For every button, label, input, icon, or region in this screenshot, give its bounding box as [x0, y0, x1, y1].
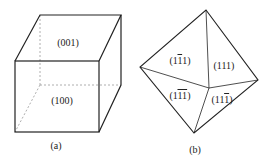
- face-label-11-1bar: (111): [212, 94, 233, 106]
- crystal-diagram: (001) (100) (a) (111) (111) (111) (111) …: [0, 0, 276, 165]
- face-label-111: (111): [214, 60, 235, 72]
- octahedron-figure: [140, 10, 258, 133]
- caption-b: (b): [189, 144, 201, 156]
- face-label-1-1bar-1bar: (111): [170, 90, 191, 102]
- face-label-100: (100): [51, 95, 73, 107]
- face-label-1-1bar-1: (111): [170, 55, 191, 67]
- face-label-001: (001): [57, 37, 79, 49]
- caption-a: (a): [50, 140, 61, 152]
- cube-figure: [15, 15, 121, 132]
